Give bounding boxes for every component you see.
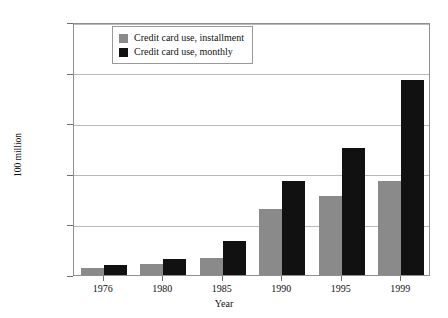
gridline — [74, 74, 429, 75]
x-tick-mark — [400, 276, 401, 281]
bar — [378, 181, 401, 275]
bar — [319, 196, 342, 275]
x-axis-title: Year — [0, 298, 448, 309]
x-tick-label: 1976 — [93, 283, 113, 294]
x-tick-label: 1990 — [271, 283, 291, 294]
legend-label: Credit card use, monthly — [134, 47, 233, 57]
bar — [282, 181, 305, 275]
gridline — [74, 226, 429, 227]
x-tick-mark — [341, 276, 342, 281]
x-tick-label: 1980 — [152, 283, 172, 294]
y-axis-title: 100 million — [13, 110, 23, 200]
legend-label: Credit card use, installment — [134, 33, 244, 43]
bar — [163, 259, 186, 275]
x-tick-mark — [281, 276, 282, 281]
bar — [342, 148, 365, 276]
bar — [140, 264, 163, 275]
x-tick-label: 1985 — [212, 283, 232, 294]
bar — [200, 258, 223, 275]
gridline — [74, 175, 429, 176]
bar — [104, 265, 127, 275]
x-tick-mark — [222, 276, 223, 281]
x-tick-mark — [162, 276, 163, 281]
y-tick-mark — [67, 276, 73, 277]
legend-swatch-icon — [119, 34, 128, 43]
gridline — [74, 24, 429, 25]
bar — [259, 209, 282, 275]
x-tick-label: 1995 — [331, 283, 351, 294]
bar — [81, 268, 104, 275]
legend-item: Credit card use, monthly — [119, 45, 244, 59]
legend-item: Credit card use, installment — [119, 31, 244, 45]
gridline — [74, 125, 429, 126]
legend-swatch-icon — [119, 48, 128, 57]
bar — [401, 80, 424, 275]
x-tick-mark — [103, 276, 104, 281]
bar — [223, 241, 246, 275]
bar-chart: 250,000200,000150,000100,00050,0000 100 … — [0, 0, 448, 318]
x-tick-label: 1999 — [390, 283, 410, 294]
chart-legend: Credit card use, installmentCredit card … — [112, 26, 253, 64]
